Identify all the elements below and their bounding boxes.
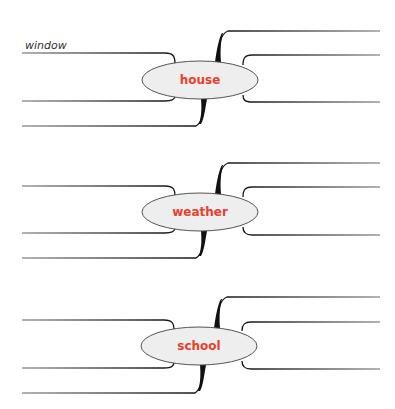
mind-map-group-school: school bbox=[22, 297, 380, 393]
branch-line-top-right[interactable] bbox=[217, 297, 380, 328]
branch-line-right-lower[interactable] bbox=[243, 95, 380, 102]
mind-map-canvas: house window weather school bbox=[0, 0, 395, 409]
branch-line-left-lower[interactable] bbox=[22, 362, 174, 368]
branch-line-right-lower[interactable] bbox=[242, 361, 380, 369]
branch-line-left-lower[interactable] bbox=[22, 96, 175, 101]
branch-stem-top bbox=[214, 299, 222, 328]
node-label-weather: weather bbox=[172, 205, 228, 219]
node-label-school: school bbox=[177, 339, 220, 353]
branch-stem-bottom bbox=[199, 99, 207, 124]
branch-line-right-lower[interactable] bbox=[243, 227, 380, 235]
branch-line-left-upper[interactable] bbox=[22, 186, 175, 196]
branch-handwritten-label: window bbox=[25, 39, 67, 52]
branch-line-top-right[interactable] bbox=[218, 31, 380, 62]
branch-stem-top bbox=[215, 165, 223, 194]
branch-line-left-upper[interactable] bbox=[22, 53, 175, 64]
branch-line-left-bottom[interactable] bbox=[22, 365, 203, 393]
branch-line-right-upper[interactable] bbox=[243, 55, 380, 65]
branch-stem-bottom bbox=[199, 231, 207, 256]
branch-line-right-upper[interactable] bbox=[242, 322, 380, 331]
branch-stem-top bbox=[215, 33, 223, 62]
branch-line-left-lower[interactable] bbox=[22, 228, 175, 233]
branch-line-left-upper[interactable] bbox=[22, 320, 174, 330]
mind-map-group-weather: weather bbox=[22, 163, 380, 258]
branch-line-top-right[interactable] bbox=[218, 163, 380, 194]
mind-map-group-house: house window bbox=[22, 31, 380, 126]
branch-line-left-bottom[interactable] bbox=[22, 231, 204, 258]
node-label-house: house bbox=[180, 73, 221, 87]
branch-line-left-bottom[interactable] bbox=[22, 99, 204, 126]
branch-stem-bottom bbox=[198, 365, 206, 391]
branch-line-right-upper[interactable] bbox=[243, 187, 380, 197]
